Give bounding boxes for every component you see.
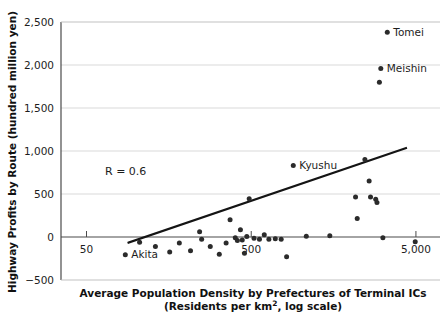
- data-point: [385, 30, 390, 35]
- data-point: [279, 237, 284, 242]
- data-point: [262, 232, 267, 237]
- y-tick-label: 500: [34, 188, 54, 200]
- data-point: [238, 227, 243, 232]
- y-tick-label: 1,000: [24, 145, 54, 157]
- y-tick-label: −500: [25, 274, 54, 286]
- data-point: [273, 236, 278, 241]
- data-point: [244, 234, 249, 239]
- data-point: [353, 195, 358, 200]
- data-point: [235, 238, 240, 243]
- x-axis-title-line2-post: , log scale): [277, 300, 342, 312]
- data-point: [304, 234, 309, 239]
- data-point: [327, 233, 332, 238]
- chart-annotations: R = 0.6: [105, 165, 146, 178]
- x-axis-title-line2: (Residents per km2, log scale): [164, 299, 342, 313]
- data-point: [197, 229, 202, 234]
- data-point: [252, 236, 257, 241]
- correlation-annotation: R = 0.6: [105, 165, 146, 178]
- data-point: [167, 250, 172, 255]
- data-point: [188, 248, 193, 253]
- data-point: [257, 237, 262, 242]
- data-point-label: Meishin: [387, 62, 427, 74]
- data-point-label: Akita: [131, 248, 158, 260]
- data-point: [242, 251, 247, 256]
- y-tick-label: 2,000: [24, 59, 54, 71]
- y-tick-label: 2,500: [24, 16, 54, 28]
- x-axis-title-line1: Average Population Density by Prefecture…: [80, 287, 427, 299]
- y-axis-title: Highway Profits by Route (hundred millio…: [6, 11, 18, 293]
- data-point: [208, 244, 213, 249]
- x-axis-title-line2-pre: (Residents per km: [164, 300, 272, 312]
- data-point: [266, 237, 271, 242]
- x-tick-label: 5,000: [401, 243, 431, 255]
- data-point-label: Tomei: [392, 26, 424, 38]
- data-point: [177, 241, 182, 246]
- x-tickmarks: [87, 231, 416, 237]
- data-point: [362, 157, 367, 162]
- y-tick-label: 1,500: [24, 102, 54, 114]
- data-point-label: Kyushu: [299, 159, 337, 171]
- data-point: [368, 195, 373, 200]
- data-point: [217, 252, 222, 257]
- data-point: [367, 179, 372, 184]
- data-point: [199, 237, 204, 242]
- x-tick-label: 50: [80, 243, 93, 255]
- data-point: [377, 80, 382, 85]
- scatter-chart: −50005001,0001,5002,0002,500 505005,000 …: [0, 0, 446, 317]
- data-point: [123, 252, 128, 257]
- data-point: [228, 217, 233, 222]
- data-points: [123, 30, 418, 259]
- gridlines-group: [61, 22, 440, 280]
- data-point: [291, 163, 296, 168]
- data-point: [413, 239, 418, 244]
- data-point: [240, 238, 245, 243]
- data-point: [380, 235, 385, 240]
- data-point: [284, 254, 289, 259]
- y-tick-label: 0: [47, 231, 54, 243]
- data-point: [247, 196, 252, 201]
- trend-line: [129, 148, 406, 243]
- data-point: [137, 240, 142, 245]
- data-point: [355, 216, 360, 221]
- point-labels: AkitaKyushuMeishinTomei: [131, 26, 427, 260]
- data-point: [374, 200, 379, 205]
- data-point: [224, 241, 229, 246]
- data-point: [378, 66, 383, 71]
- y-axis-tick-labels: −50005001,0001,5002,0002,500: [24, 16, 54, 286]
- chart-canvas: −50005001,0001,5002,0002,500 505005,000 …: [0, 0, 446, 317]
